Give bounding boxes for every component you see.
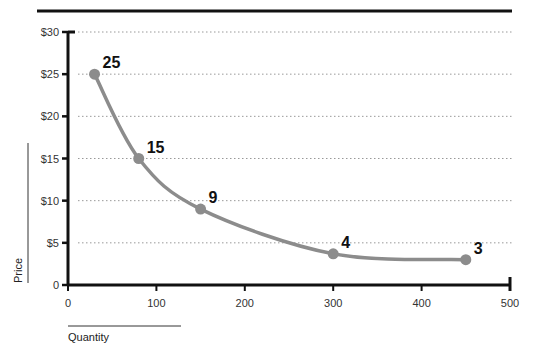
data-point-label: 3	[474, 240, 483, 257]
demand-curve-chart: 0$5$10$15$20$25$30 0100200300400500 Pric…	[0, 0, 533, 356]
y-tick-label: $30	[41, 26, 59, 38]
x-tick-label: 400	[412, 297, 430, 309]
demand-curve-line	[95, 74, 466, 260]
x-tick-label: 200	[236, 297, 254, 309]
x-tick-label: 300	[324, 297, 342, 309]
data-point-marker	[328, 248, 339, 259]
data-point-label: 4	[341, 234, 350, 251]
x-tick-label: 500	[501, 297, 519, 309]
y-tick-label: $25	[41, 68, 59, 80]
y-tick-label: $15	[41, 153, 59, 165]
y-axis-ticks: 0$5$10$15$20$25$30	[41, 26, 68, 291]
y-axis-title: Price	[12, 258, 24, 283]
y-tick-label: $20	[41, 110, 59, 122]
data-point-marker	[89, 69, 100, 80]
data-point-label: 15	[147, 139, 165, 156]
data-point-label: 9	[209, 189, 218, 206]
x-tick-label: 100	[147, 297, 165, 309]
y-tick-label: $5	[47, 237, 59, 249]
x-axis-title: Quantity	[68, 331, 109, 343]
x-tick-label: 0	[65, 297, 71, 309]
data-point-marker	[460, 254, 471, 265]
data-point-marker	[195, 204, 206, 215]
gridlines	[78, 32, 512, 243]
x-axis-ticks: 0100200300400500	[65, 277, 519, 309]
y-tick-label: 0	[53, 279, 59, 291]
data-point-label: 25	[103, 54, 121, 71]
data-point-marker	[133, 153, 144, 164]
data-points: 2515943	[89, 54, 483, 265]
y-tick-label: $10	[41, 195, 59, 207]
